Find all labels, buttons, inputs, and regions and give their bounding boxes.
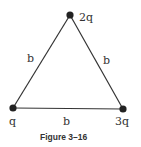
charge-dot-bottom-right bbox=[119, 105, 126, 112]
side-right bbox=[70, 15, 123, 109]
charge-label-bottom-left: q bbox=[9, 115, 16, 128]
charge-dot-bottom-left bbox=[9, 104, 16, 111]
side-left bbox=[13, 15, 70, 108]
charge-label-bottom-right: 3q bbox=[115, 115, 129, 128]
side-bottom bbox=[13, 108, 123, 109]
side-label-left: b bbox=[27, 52, 34, 65]
charge-dot-top bbox=[66, 11, 73, 18]
figure-caption: Figure 3–16 bbox=[40, 132, 88, 142]
side-label-bottom: b bbox=[63, 115, 70, 128]
charge-label-top: 2q bbox=[79, 11, 93, 24]
side-label-right: b bbox=[103, 54, 110, 67]
triangle-diagram: 2q q 3q b b b Figure 3–16 bbox=[0, 0, 141, 147]
